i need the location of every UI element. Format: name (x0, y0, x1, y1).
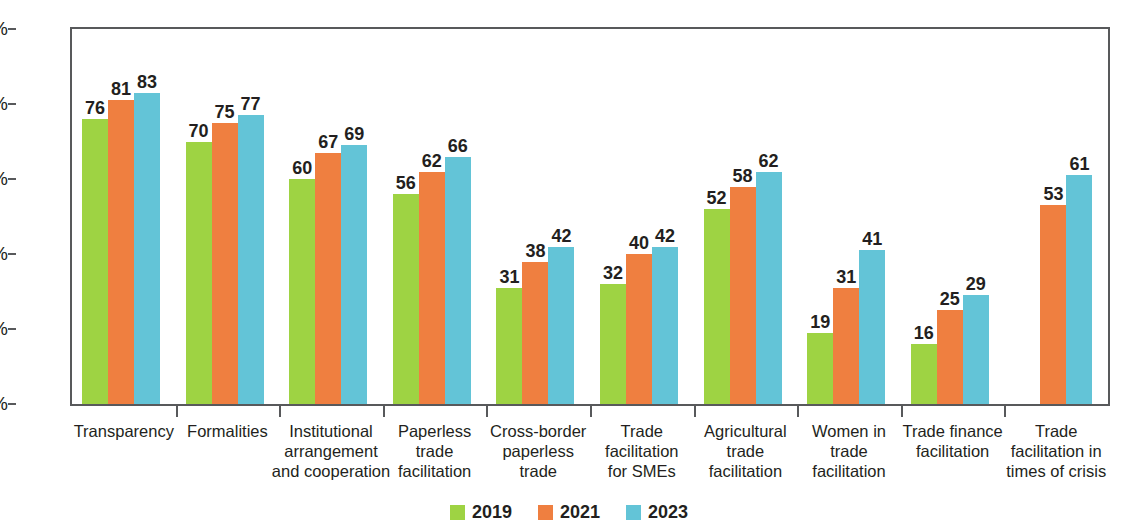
bar: 83 (134, 93, 160, 404)
bar: 70 (186, 142, 212, 405)
y-axis-tick-label: 100% (0, 18, 8, 40)
bar-value-label: 62 (422, 152, 442, 170)
bar-chart: 0%20%40%60%80%100% 768183707577606769566… (0, 0, 1138, 532)
bar: 38 (522, 262, 548, 405)
bar-value-label: 40 (629, 234, 649, 252)
bar: 19 (807, 333, 833, 404)
bar-value-label: 69 (344, 125, 364, 143)
x-axis-tick-mark (901, 406, 903, 417)
y-axis-tick-mark (8, 403, 16, 405)
bar-group: 525862 (694, 29, 798, 404)
bar-value-label: 19 (810, 313, 830, 331)
bar: 58 (730, 187, 756, 405)
x-axis-category-label-line: Trade (995, 421, 1117, 441)
bar-group: 313842 (486, 29, 590, 404)
bar-value-label: 32 (603, 264, 623, 282)
x-axis-tick-mark (279, 406, 281, 417)
legend-label: 2019 (472, 503, 512, 521)
legend-label: 2021 (560, 503, 600, 521)
bar-value-label: 29 (966, 275, 986, 293)
bar-value-label: 52 (707, 189, 727, 207)
bar: 62 (419, 172, 445, 405)
bar-value-label: 76 (85, 99, 105, 117)
bar-value-label: 75 (215, 103, 235, 121)
bar-value-label: 56 (396, 174, 416, 192)
bar-value-label: 58 (733, 167, 753, 185)
bar-value-label: 38 (525, 242, 545, 260)
bars-layer: 7681837075776067695662663138423240425258… (72, 29, 1108, 404)
legend-label: 2023 (648, 503, 688, 521)
bar-value-label: 61 (1069, 155, 1089, 173)
bar: 76 (82, 119, 108, 404)
y-axis-tick-label: 60% (0, 168, 8, 190)
legend-swatch-icon (450, 505, 465, 520)
bar: 42 (652, 247, 678, 405)
bar-value-label: 53 (1043, 185, 1063, 203)
bar: 81 (108, 100, 134, 404)
bar: 31 (833, 288, 859, 404)
y-axis-tick-mark (8, 253, 16, 255)
chart-legend: 201920212023 (0, 503, 1138, 521)
bar-value-label: 31 (499, 268, 519, 286)
bar-value-label: 25 (940, 290, 960, 308)
bar-value-label: 83 (137, 73, 157, 91)
bar: 56 (393, 194, 419, 404)
bar: 40 (626, 254, 652, 404)
y-axis-tick-label: 80% (0, 93, 8, 115)
bar-value-label: 31 (836, 268, 856, 286)
legend-swatch-icon (626, 505, 641, 520)
legend-item-2021[interactable]: 2021 (538, 503, 600, 521)
y-axis-tick-label: 40% (0, 243, 8, 265)
bar: 32 (600, 284, 626, 404)
bar-group: 5361 (1004, 29, 1108, 404)
x-axis-tick-mark (486, 406, 488, 417)
bar: 60 (289, 179, 315, 404)
bar-group: 193141 (797, 29, 901, 404)
x-axis-tick-mark (694, 406, 696, 417)
y-axis-tick-mark (8, 28, 16, 30)
bar-value-label: 42 (655, 227, 675, 245)
bar-group: 768183 (72, 29, 176, 404)
bar-group: 324042 (590, 29, 694, 404)
bar-value-label: 77 (241, 95, 261, 113)
bar-value-label: 60 (292, 159, 312, 177)
bar-group: 566266 (383, 29, 487, 404)
bar-value-label: 41 (862, 230, 882, 248)
x-axis-tick-mark (1004, 406, 1006, 417)
x-axis-labels: TransparencyFormalitiesInstitutionalarra… (0, 421, 1138, 491)
bar: 42 (548, 247, 574, 405)
x-axis-tick-mark (797, 406, 799, 417)
bar: 69 (341, 145, 367, 404)
x-axis-category-label-line: times of crisis (995, 461, 1117, 481)
bar: 16 (911, 344, 937, 404)
bar: 25 (937, 310, 963, 404)
bar-value-label: 42 (551, 227, 571, 245)
bar-value-label: 81 (111, 80, 131, 98)
x-axis-category-label: Tradefacilitation intimes of crisis (995, 421, 1117, 481)
bar-group: 606769 (279, 29, 383, 404)
legend-item-2023[interactable]: 2023 (626, 503, 688, 521)
x-axis-category-label-line: facilitation in (995, 441, 1117, 461)
bar-group: 162529 (901, 29, 1005, 404)
bar: 31 (496, 288, 522, 404)
y-axis: 0%20%40%60%80%100% (0, 0, 70, 420)
bar-value-label: 70 (189, 122, 209, 140)
bar-value-label: 16 (914, 324, 934, 342)
x-axis-tick-mark (176, 406, 178, 417)
bar-value-label: 62 (759, 152, 779, 170)
bar: 52 (704, 209, 730, 404)
bar-value-label: 66 (448, 137, 468, 155)
bar: 29 (963, 295, 989, 404)
bar: 53 (1040, 205, 1066, 404)
bar: 41 (859, 250, 885, 404)
y-axis-tick-label: 20% (0, 318, 8, 340)
bar: 67 (315, 153, 341, 404)
bar: 75 (212, 123, 238, 404)
bar: 66 (445, 157, 471, 405)
y-axis-tick-mark (8, 328, 16, 330)
bar-group: 707577 (176, 29, 280, 404)
y-axis-tick-mark (8, 178, 16, 180)
bar: 61 (1066, 175, 1092, 404)
x-axis-ticks (0, 406, 1138, 418)
legend-item-2019[interactable]: 2019 (450, 503, 512, 521)
